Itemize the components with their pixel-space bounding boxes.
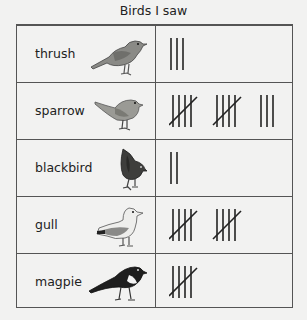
tally-marks xyxy=(169,150,289,186)
tally-marks xyxy=(169,264,289,300)
blackbird-icon xyxy=(85,143,149,193)
table-row: sparrow xyxy=(17,82,292,139)
bird-label: thrush xyxy=(35,26,75,83)
tally-marks xyxy=(169,93,289,129)
bird-label: magpie xyxy=(35,254,82,311)
thrush-icon xyxy=(85,29,149,79)
table-row: gull xyxy=(17,196,292,253)
sparrow-icon xyxy=(85,86,149,136)
magpie-icon xyxy=(85,257,149,307)
bird-label: blackbird xyxy=(35,140,92,197)
bird-label: gull xyxy=(35,197,58,254)
gull-icon xyxy=(85,200,149,250)
table-row: blackbird xyxy=(17,139,292,196)
bird-label: sparrow xyxy=(35,83,85,140)
table-row: magpie xyxy=(17,253,292,310)
chart-title: Birds I saw xyxy=(0,3,307,18)
tally-marks xyxy=(169,36,289,72)
tally-table: thrush sparrow xyxy=(16,24,293,308)
table-row: thrush xyxy=(17,25,292,82)
tally-marks xyxy=(169,207,289,243)
